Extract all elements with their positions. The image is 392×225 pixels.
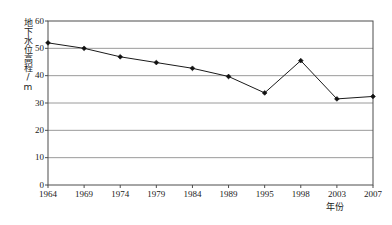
gridlines	[48, 48, 373, 157]
data-point-markers	[46, 40, 376, 101]
x-axis-title: 年份	[300, 202, 370, 212]
plot-area	[0, 0, 392, 225]
data-line-series-1	[48, 43, 373, 99]
chart-figure: 地下水位高程/m 0102030405060 19641969197419791…	[0, 0, 392, 225]
